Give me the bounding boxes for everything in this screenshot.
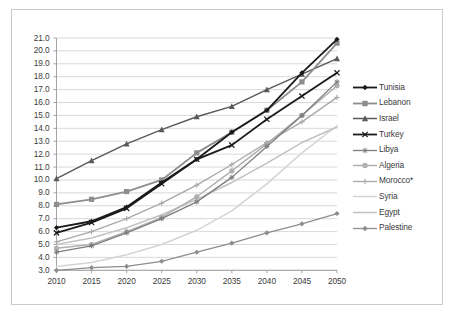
legend-marker-icon xyxy=(352,158,378,171)
x-tick-label: 2045 xyxy=(285,276,319,286)
legend-label: Israel xyxy=(378,113,399,123)
legend-item-tunisia[interactable]: Tunisia xyxy=(352,79,448,95)
y-tick-label: 17.0 xyxy=(24,84,50,94)
legend-item-turkey[interactable]: Turkey xyxy=(352,126,448,142)
legend-item-syria[interactable]: Syria xyxy=(352,188,448,204)
y-tick-label: 8.0 xyxy=(24,200,50,210)
y-tick-label: 9.0 xyxy=(24,187,50,197)
y-tick-label: 16.0 xyxy=(24,97,50,107)
legend-label: Tunisia xyxy=(378,82,405,92)
legend-label: Turkey xyxy=(378,129,403,139)
y-tick-label: 10.0 xyxy=(24,174,50,184)
legend-item-palestine[interactable]: Palestine xyxy=(352,219,448,235)
legend-marker-icon xyxy=(352,174,378,187)
x-tick-label: 2020 xyxy=(110,276,144,286)
x-tick-label: 2040 xyxy=(250,276,284,286)
y-tick-label: 12.0 xyxy=(24,149,50,159)
x-tick-label: 2035 xyxy=(215,276,249,286)
legend-marker-icon xyxy=(352,189,378,202)
series-layer xyxy=(54,37,341,273)
y-tick-label: 14.0 xyxy=(24,123,50,133)
legend-item-lebanon[interactable]: Lebanon xyxy=(352,95,448,111)
legend-marker-icon xyxy=(352,96,378,109)
chart-legend: TunisiaLebanonIsraelTurkeyLibyaAlgeriaMo… xyxy=(352,79,448,235)
x-tick-label: 2025 xyxy=(145,276,179,286)
x-tick-label: 2015 xyxy=(75,276,109,286)
legend-label: Libya xyxy=(378,144,398,154)
legend-marker-icon xyxy=(352,127,378,140)
y-tick-label: 4.0 xyxy=(24,252,50,262)
legend-item-egypt[interactable]: Egypt xyxy=(352,204,448,220)
legend-marker-icon xyxy=(352,205,378,218)
legend-label: Morocco* xyxy=(378,175,413,185)
legend-item-israel[interactable]: Israel xyxy=(352,110,448,126)
y-tick-label: 18.0 xyxy=(24,71,50,81)
legend-label: Syria xyxy=(378,191,397,201)
series-israel xyxy=(54,56,341,182)
legend-marker-icon xyxy=(352,80,378,93)
y-tick-label: 15.0 xyxy=(24,110,50,120)
y-tick-label: 20.0 xyxy=(24,45,50,55)
x-tick-label: 2050 xyxy=(320,276,354,286)
y-tick-label: 5.0 xyxy=(24,239,50,249)
y-tick-label: 19.0 xyxy=(24,58,50,68)
legend-label: Lebanon xyxy=(378,97,411,107)
x-tick-label: 2030 xyxy=(180,276,214,286)
legend-marker-icon xyxy=(352,111,378,124)
y-tick-label: 13.0 xyxy=(24,136,50,146)
legend-item-libya[interactable]: Libya xyxy=(352,141,448,157)
legend-item-algeria[interactable]: Algeria xyxy=(352,157,448,173)
y-tick-label: 6.0 xyxy=(24,226,50,236)
legend-label: Egypt xyxy=(378,207,400,217)
axis-ticks xyxy=(54,38,338,273)
series-lebanon xyxy=(54,41,340,208)
y-tick-label: 11.0 xyxy=(24,162,50,172)
legend-marker-icon xyxy=(352,143,378,156)
legend-label: Algeria xyxy=(378,160,404,170)
legend-label: Palestine xyxy=(378,222,412,232)
legend-marker-icon xyxy=(352,221,378,234)
x-tick-label: 2010 xyxy=(40,276,74,286)
legend-item-morocco-[interactable]: Morocco* xyxy=(352,173,448,189)
y-tick-label: 3.0 xyxy=(24,265,50,275)
y-tick-label: 7.0 xyxy=(24,213,50,223)
y-tick-label: 21.0 xyxy=(24,33,50,43)
